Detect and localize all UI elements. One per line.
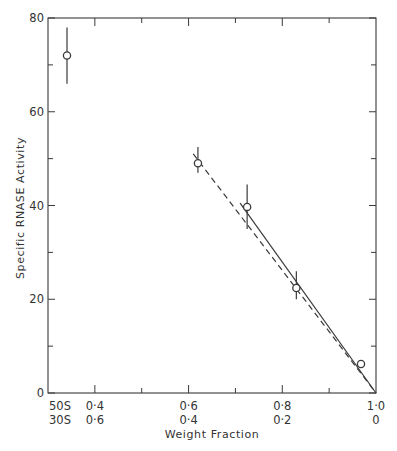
x-tick-label-lower: 0 [372, 413, 379, 427]
x-axis-title: Weight Fraction [165, 428, 260, 441]
x-tick-label-upper: 0·6 [179, 399, 197, 413]
x-tick-label-lower: 30S [49, 413, 71, 427]
y-tick-label: 80 [29, 11, 44, 25]
dashed-fit-line [193, 154, 376, 393]
x-tick-label-upper: 0·8 [273, 399, 291, 413]
x-tick-label-upper: 1·0 [367, 399, 385, 413]
solid-fit-line [240, 203, 376, 393]
x-tick-label-lower: 0·2 [273, 413, 291, 427]
data-point-marker [63, 52, 70, 59]
plot-frame [48, 18, 376, 393]
x-tick-label-upper: 50S [49, 399, 71, 413]
data-points [63, 27, 364, 367]
y-axis-ticks: 020406080 [29, 11, 376, 400]
data-point-marker [244, 203, 251, 210]
data-point-marker [293, 284, 300, 291]
y-tick-label: 20 [29, 292, 44, 306]
data-point-marker [194, 160, 201, 167]
data-point-marker [357, 360, 364, 367]
plot-border [48, 18, 376, 393]
y-tick-label: 0 [37, 386, 44, 400]
y-tick-label: 60 [29, 105, 44, 119]
x-axis-ticks: 50S30S0·40·60·60·40·80·21·00 [49, 18, 385, 427]
chart: 020406080 50S30S0·40·60·60·40·80·21·00 W… [0, 0, 397, 451]
y-tick-label: 40 [29, 199, 44, 213]
x-tick-label-lower: 0·4 [179, 413, 197, 427]
x-tick-label-upper: 0·4 [86, 399, 104, 413]
fit-lines [193, 154, 376, 393]
y-axis-title: Specific RNASE Activity [14, 137, 27, 279]
x-tick-label-lower: 0·6 [86, 413, 104, 427]
